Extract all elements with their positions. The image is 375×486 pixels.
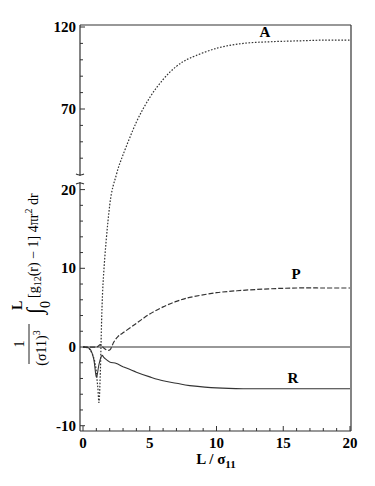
- y-label-frac-den: (σ11)3: [31, 330, 50, 365]
- y-tick-10: 10: [61, 260, 76, 276]
- x-tick-10: 10: [209, 435, 224, 451]
- y-tick-120: 120: [54, 19, 77, 35]
- plot-frame: [76, 25, 351, 431]
- x-tick-5: 5: [146, 435, 154, 451]
- curve-label-A: A: [260, 24, 271, 40]
- x-tick-15: 15: [276, 435, 291, 451]
- x-tick-20: 20: [343, 435, 358, 451]
- y-label-frac-num: 1: [12, 341, 27, 348]
- series-p: [83, 288, 350, 351]
- curve-label-R: R: [288, 370, 299, 386]
- series-a: [83, 40, 350, 402]
- plot-series: [83, 40, 350, 402]
- axis-ticks: [80, 27, 350, 431]
- y-label-integrand: [g12(r) − 1] 4πr2 dr: [23, 193, 43, 298]
- x-tick-0: 0: [79, 435, 87, 451]
- x-tick-labels: 05101520: [79, 435, 357, 451]
- series-r: [83, 347, 350, 389]
- y-axis-title: 1 (σ11)3 ∫ L 0 [g12(r) − 1] 4πr2 dr: [10, 193, 53, 366]
- y-tick-70: 70: [61, 101, 76, 117]
- chart-canvas: 120 70 20 10 0 -10 05101520 A P R L / σ1…: [0, 0, 375, 486]
- x-axis-title: L / σ11: [196, 451, 235, 470]
- y-label-int-lower: 0: [38, 301, 53, 308]
- curve-label-P: P: [291, 266, 300, 282]
- y-tick-20: 20: [61, 182, 76, 198]
- y-tick-minus-10: -10: [56, 418, 76, 434]
- y-tick-0: 0: [69, 339, 77, 355]
- y-label-int-upper: L: [10, 301, 25, 310]
